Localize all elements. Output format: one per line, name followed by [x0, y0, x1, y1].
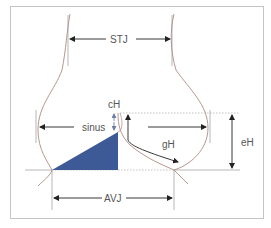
gh-label: gH	[162, 139, 175, 150]
ch-label: cH	[108, 99, 120, 110]
frame-border	[11, 7, 264, 219]
right-aortic-wall	[171, 14, 208, 184]
aortic-root-diagram: STJ sinus cH gH eH AVJ	[0, 0, 271, 228]
avj-label: AVJ	[104, 193, 122, 204]
left-aortic-wall	[38, 14, 70, 186]
cusp-triangle	[52, 132, 118, 170]
sinus-label: sinus	[82, 122, 105, 133]
eh-label: eH	[241, 137, 254, 148]
stj-label: STJ	[110, 34, 128, 45]
